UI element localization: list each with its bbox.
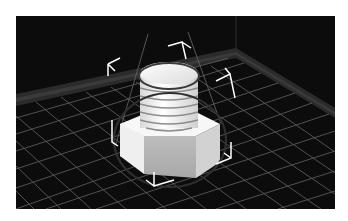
scene[interactable]: [16, 16, 335, 209]
hex-head-front-face: [144, 136, 196, 178]
3d-viewport[interactable]: 3D viewport: [16, 16, 335, 209]
bracket-top: [168, 42, 191, 59]
bolt-top-cap: [140, 62, 198, 84]
